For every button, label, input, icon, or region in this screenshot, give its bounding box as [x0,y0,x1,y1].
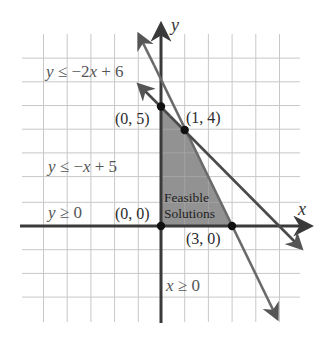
label-point-3-0: (3, 0) [186,230,221,248]
vertex-0-0 [157,222,165,230]
label-y-le-neg2x-plus-6: y ≤ −2x + 6 [44,62,124,81]
chart-canvas: y x y ≤ −2x + 6 y ≤ −x + 5 y ≥ 0 x ≥ 0 (… [0,0,326,349]
label-feasible: Feasible [164,190,209,205]
label-point-0-5: (0, 5) [115,110,150,128]
x-axis-label: x [297,199,306,219]
vertex-1-4 [181,126,189,134]
label-point-0-0: (0, 0) [115,205,150,223]
label-point-1-4: (1, 4) [186,109,221,127]
label-x-ge-0: x ≥ 0 [165,276,200,295]
vertex-3-0 [228,222,236,230]
vertex-0-5 [157,102,165,110]
y-axis-label: y [169,15,179,35]
label-y-ge-0: y ≥ 0 [46,203,82,222]
label-y-le-negx-plus-5: y ≤ −x + 5 [46,157,117,176]
linear-programming-graph: y x y ≤ −2x + 6 y ≤ −x + 5 y ≥ 0 x ≥ 0 (… [0,0,326,349]
label-solutions: Solutions [164,206,215,221]
line-y-le-neg2x-plus-6 [139,35,154,65]
